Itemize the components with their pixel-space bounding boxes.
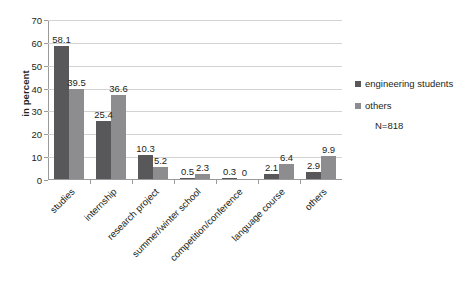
bar-value-label: 36.6: [107, 83, 131, 94]
legend: engineering students others: [355, 78, 467, 122]
bar-chart: in percent 010203040506070 58.139.525.43…: [0, 0, 469, 286]
legend-item-engineering-students[interactable]: engineering students: [355, 78, 467, 89]
x-tick-label-text: internship: [82, 186, 119, 223]
y-tick-mark: [44, 134, 48, 135]
y-tick-label: 60: [31, 37, 42, 48]
x-category-separator: [300, 180, 301, 184]
x-tick-label-text: studies: [48, 186, 77, 215]
gridline: [48, 20, 342, 21]
y-tick-mark: [44, 157, 48, 158]
y-axis-title: in percent: [20, 52, 31, 136]
y-tick-label: 30: [31, 106, 42, 117]
x-category-separator: [132, 180, 133, 184]
legend-label: others: [365, 100, 391, 111]
x-tick-label-text: competition/conference: [168, 186, 245, 263]
y-tick-mark: [44, 180, 48, 181]
y-tick-label: 50: [31, 60, 42, 71]
bar-value-label: 39.5: [65, 77, 89, 88]
y-tick-label: 10: [31, 152, 42, 163]
gridline: [48, 66, 342, 67]
x-category-separator: [174, 180, 175, 184]
bar[interactable]: [222, 178, 237, 179]
gridline: [48, 89, 342, 90]
y-tick-mark: [44, 89, 48, 90]
bar-value-label: 5.2: [149, 155, 173, 166]
legend-swatch-icon: [355, 103, 361, 109]
y-tick-mark: [44, 111, 48, 112]
y-tick-mark: [44, 20, 48, 21]
y-tick-mark: [44, 43, 48, 44]
y-tick-label: 40: [31, 83, 42, 94]
bar[interactable]: [54, 46, 69, 179]
bar[interactable]: [306, 172, 321, 179]
y-tick-label: 0: [37, 175, 42, 186]
x-category-separator: [216, 180, 217, 184]
bar[interactable]: [69, 89, 84, 179]
bar-value-label: 58.1: [50, 34, 74, 45]
gridline: [48, 43, 342, 44]
y-tick-label: 20: [31, 129, 42, 140]
bar-value-label: 10.3: [134, 143, 158, 154]
bar[interactable]: [264, 174, 279, 179]
y-tick-mark: [44, 66, 48, 67]
legend-item-others[interactable]: others: [355, 100, 467, 111]
x-tick-label-text: others: [302, 186, 328, 212]
sample-size-annotation: N=818: [375, 120, 403, 131]
bar[interactable]: [111, 95, 126, 179]
legend-swatch-icon: [355, 81, 361, 87]
x-category-separator: [90, 180, 91, 184]
bar[interactable]: [96, 121, 111, 179]
legend-label: engineering students: [365, 78, 453, 89]
x-category-separator: [258, 180, 259, 184]
bar-value-label: 25.4: [92, 109, 116, 120]
bar[interactable]: [180, 178, 195, 179]
y-tick-label: 70: [31, 15, 42, 26]
